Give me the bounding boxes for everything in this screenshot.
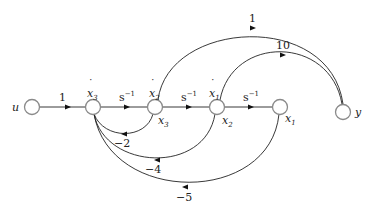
gain-x2-x1: s−1: [181, 90, 197, 104]
arrow-icon: [65, 105, 71, 110]
label-x2-state: x2: [222, 114, 233, 129]
label-x3-state: x3: [158, 114, 169, 129]
label-y: y: [354, 106, 362, 119]
gain-u-x3dot: 1: [59, 91, 66, 104]
dot-x2dot: ˙: [150, 78, 156, 91]
edge-x1dot-y-gain-10: [220, 52, 342, 104]
dot-x1dot: ˙: [210, 78, 216, 91]
gain-10: 10: [276, 39, 290, 52]
node-u: [25, 100, 40, 115]
edge-x2dot-x3dot-gain-m2: [94, 114, 153, 134]
gain-x1-x1: s−1: [243, 90, 259, 104]
arrow-icon: [186, 105, 192, 110]
signal-flow-graph: u y x3 ˙ x2 ˙ x1 ˙ x3 x2 x1 1 s−1 s−1 s−…: [0, 0, 373, 210]
gain-fb-m4: −4: [145, 163, 161, 176]
label-x1-state: x1: [285, 112, 296, 127]
gain-fb-m2: −2: [114, 137, 130, 150]
arrow-icon: [121, 132, 127, 137]
gain-top-1: 1: [249, 12, 256, 25]
gain-x3-x2: s−1: [119, 90, 135, 104]
arrow-icon: [250, 26, 256, 31]
dot-x3dot: ˙: [88, 78, 94, 91]
gain-fb-m5: −5: [176, 191, 192, 204]
arrow-icon: [280, 53, 286, 58]
arrow-icon: [182, 185, 188, 190]
arrow-icon: [248, 105, 254, 110]
node-y: [336, 105, 351, 120]
label-u: u: [12, 101, 19, 114]
arrow-icon: [124, 105, 130, 110]
